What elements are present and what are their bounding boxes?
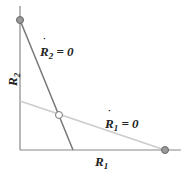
svg-text:R2: R2 [5, 72, 22, 87]
x-axis-label: R1 [94, 154, 108, 171]
r1-axis-equilibrium-point [162, 147, 169, 154]
phase-plane-diagram: R2 = 0 · R1 = 0 · R1 R2 [0, 0, 187, 177]
y-axis-label: R2 [5, 72, 22, 87]
r1-nullcline-label: R1 = 0 [104, 116, 139, 133]
r1-dot: · [108, 106, 111, 115]
r1-nullcline [20, 101, 165, 150]
r2-axis-equilibrium-point [17, 17, 24, 24]
r2-dot: · [43, 34, 46, 43]
r2-nullcline-label: R2 = 0 [39, 44, 74, 61]
r2-nullcline [20, 20, 73, 150]
coexistence-equilibrium-point [56, 112, 63, 119]
